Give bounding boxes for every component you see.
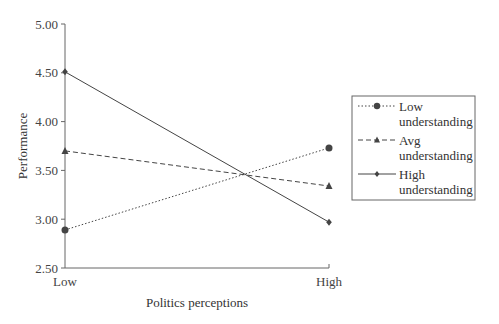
legend-label: High: [399, 167, 426, 182]
series-avg-understanding: [62, 147, 333, 189]
x-axis-title: Politics perceptions: [146, 295, 248, 310]
legend-label-line2: understanding: [399, 148, 473, 163]
diamond-marker-icon: [62, 68, 68, 75]
diamond-marker-icon: [326, 219, 332, 226]
legend-label: Low: [399, 99, 423, 114]
y-tick-label: 3.00: [35, 212, 58, 227]
y-tick-label: 4.00: [35, 114, 58, 129]
y-axis: 2.503.003.504.004.505.00: [35, 17, 65, 276]
y-tick-label: 3.50: [35, 163, 58, 178]
x-tick-label-low: Low: [53, 274, 77, 289]
circle-marker-icon: [326, 144, 333, 151]
series-low-understanding: [62, 144, 333, 233]
y-tick-label: 4.50: [35, 65, 58, 80]
plot-series: [62, 68, 333, 233]
triangle-marker-icon: [62, 147, 69, 154]
circle-marker-icon: [62, 226, 69, 233]
x-tick-label-high: High: [316, 274, 343, 289]
triangle-marker-icon: [326, 182, 333, 189]
y-tick-label: 5.00: [35, 17, 58, 32]
legend-label: Avg: [399, 133, 421, 148]
series-high-understanding: [62, 68, 332, 225]
legend-label-line2: understanding: [399, 114, 473, 129]
interaction-line-chart: 2.503.003.504.004.505.00 Low High Politi…: [0, 0, 499, 324]
y-axis-title: Performance: [15, 113, 30, 180]
x-axis: Low High: [53, 264, 342, 289]
legend: LowunderstandingAvgunderstandingHighunde…: [352, 96, 475, 200]
legend-label-line2: understanding: [399, 182, 473, 197]
circle-marker-icon: [374, 103, 380, 109]
